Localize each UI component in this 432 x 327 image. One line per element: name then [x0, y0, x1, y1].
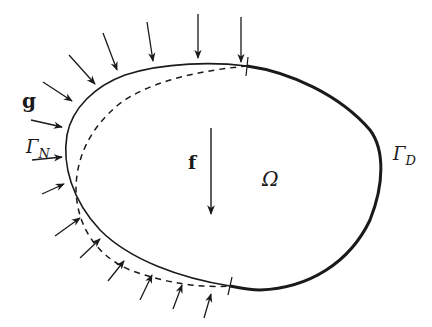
elasticity-domain-figure: g ΓN f Ω ΓD	[0, 0, 432, 327]
traction-label: g	[22, 89, 36, 113]
body-force-label: f	[188, 151, 198, 173]
domain-label: Ω	[261, 167, 279, 191]
traction-arrow-icon	[103, 33, 117, 70]
figure-canvas: g ΓN f Ω ΓD	[0, 0, 432, 327]
traction-arrow-icon	[204, 294, 211, 318]
neumann-boundary-curve	[66, 64, 247, 286]
traction-arrow-icon	[31, 120, 62, 127]
traction-arrow-icon	[147, 22, 153, 61]
dirichlet-boundary-curve	[230, 66, 381, 290]
traction-arrow-icon	[55, 218, 80, 236]
traction-arrow-icon	[173, 285, 182, 309]
traction-arrows-top	[31, 14, 241, 160]
neumann-boundary-label: ΓN	[25, 136, 51, 161]
deformed-boundary-dashed-curve	[76, 66, 247, 286]
traction-arrow-icon	[80, 239, 100, 258]
dirichlet-boundary-label: ΓD	[392, 143, 417, 168]
traction-arrow-icon	[43, 82, 72, 101]
traction-arrow-icon	[42, 184, 64, 194]
traction-arrow-icon	[69, 55, 95, 84]
traction-arrow-icon	[140, 275, 152, 300]
traction-arrow-icon	[108, 261, 124, 281]
